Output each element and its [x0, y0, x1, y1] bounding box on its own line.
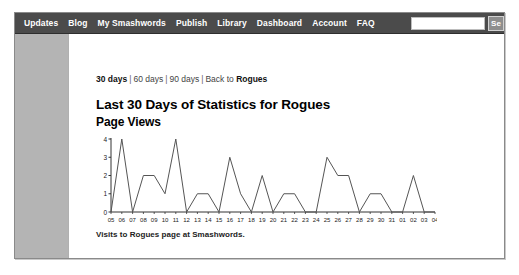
x-tick-label: 30 [378, 217, 385, 223]
page-title: Last 30 Days of Statistics for Rogues [96, 97, 496, 112]
x-tick-label: 28 [356, 217, 363, 223]
x-tick-label: 23 [302, 217, 309, 223]
x-tick-label: 05 [108, 217, 115, 223]
y-tick-label: 0 [103, 209, 107, 216]
nav-item-faq[interactable]: FAQ [352, 13, 380, 34]
x-tick-label: 24 [313, 217, 320, 223]
left-sidebar-column [15, 34, 69, 258]
nav-item-my-smashwords[interactable]: My Smashwords [93, 13, 171, 34]
x-tick-label: 13 [194, 217, 201, 223]
x-tick-label: 14 [205, 217, 212, 223]
y-tick-label: 2 [103, 172, 107, 179]
x-tick-label: 15 [216, 217, 223, 223]
x-tick-label: 20 [270, 217, 277, 223]
x-tick-label: 16 [226, 217, 233, 223]
page-body: 30 days|60 days|90 days|Back to Rogues L… [15, 34, 504, 258]
range-link-30-days[interactable]: 30 days [96, 74, 127, 84]
page-views-chart: 0123405060708091011121314151617181920212… [97, 133, 437, 225]
x-tick-label: 03 [421, 217, 428, 223]
chart-heading: Page Views [96, 115, 496, 129]
back-to-link-prefix[interactable]: Back to [205, 74, 236, 84]
nav-item-publish[interactable]: Publish [171, 13, 212, 34]
y-tick-label: 4 [103, 136, 107, 143]
back-to-link-target[interactable]: Rogues [236, 74, 267, 84]
search-button[interactable]: Se [488, 16, 504, 31]
y-tick-label: 1 [103, 190, 107, 197]
range-link-60-days[interactable]: 60 days [133, 74, 163, 84]
browser-page-frame: Updates Blog My Smashwords Publish Libra… [14, 12, 505, 259]
nav-item-dashboard[interactable]: Dashboard [252, 13, 307, 34]
content-inner: 30 days|60 days|90 days|Back to Rogues L… [96, 74, 496, 258]
x-tick-label: 04 [432, 217, 437, 223]
x-tick-label: 31 [388, 217, 395, 223]
top-navigation-bar: Updates Blog My Smashwords Publish Libra… [15, 13, 504, 34]
main-content-area: 30 days|60 days|90 days|Back to Rogues L… [69, 34, 504, 258]
x-tick-label: 06 [118, 217, 125, 223]
x-tick-label: 19 [259, 217, 266, 223]
x-tick-label: 12 [183, 217, 190, 223]
x-tick-label: 27 [345, 217, 352, 223]
nav-item-account[interactable]: Account [307, 13, 352, 34]
chart-series-line [111, 139, 435, 212]
range-link-90-days[interactable]: 90 days [169, 74, 199, 84]
date-range-links: 30 days|60 days|90 days|Back to Rogues [96, 74, 496, 84]
x-tick-label: 29 [367, 217, 374, 223]
nav-search-area: Se [411, 13, 504, 34]
x-tick-label: 10 [162, 217, 169, 223]
nav-item-updates[interactable]: Updates [19, 13, 63, 34]
x-tick-label: 09 [151, 217, 158, 223]
chart-caption: Visits to Rogues page at Smashwords. [96, 230, 496, 239]
screenshot-root: Updates Blog My Smashwords Publish Libra… [0, 0, 519, 275]
nav-item-library[interactable]: Library [212, 13, 252, 34]
x-tick-label: 18 [248, 217, 255, 223]
x-tick-label: 25 [324, 217, 331, 223]
search-input[interactable] [411, 17, 485, 30]
y-tick-label: 3 [103, 154, 107, 161]
nav-item-list: Updates Blog My Smashwords Publish Libra… [15, 13, 380, 34]
x-tick-label: 11 [173, 217, 180, 223]
x-tick-label: 26 [334, 217, 341, 223]
x-tick-label: 08 [140, 217, 147, 223]
x-tick-label: 22 [291, 217, 298, 223]
nav-item-blog[interactable]: Blog [63, 13, 92, 34]
x-tick-label: 01 [399, 217, 406, 223]
x-tick-label: 02 [410, 217, 417, 223]
x-tick-label: 17 [237, 217, 244, 223]
line-chart-svg: 0123405060708091011121314151617181920212… [97, 133, 437, 225]
x-tick-label: 21 [280, 217, 287, 223]
x-tick-label: 07 [129, 217, 136, 223]
